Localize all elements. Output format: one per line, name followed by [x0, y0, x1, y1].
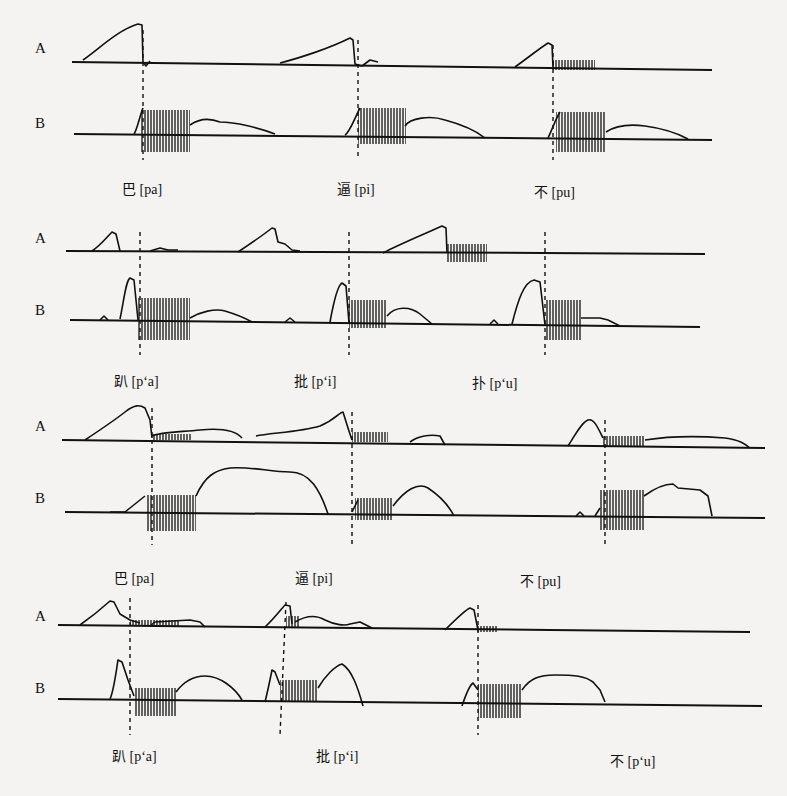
panel4-waveforms — [58, 598, 762, 735]
panel1-waveforms — [72, 24, 712, 160]
waveform-diagram — [0, 0, 787, 796]
panel2-waveforms — [66, 226, 705, 355]
panel3-waveforms — [62, 406, 765, 545]
